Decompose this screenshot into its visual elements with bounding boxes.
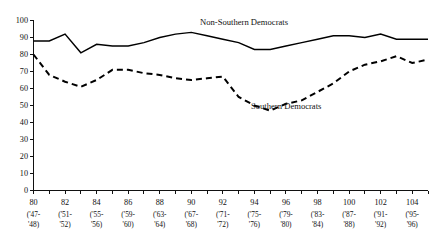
series-annotation-label: Southern Democrats bbox=[251, 101, 322, 111]
series-line-southern-democrats bbox=[34, 55, 429, 111]
x-tick-label: 80 bbox=[29, 198, 37, 207]
x-tick-sublabel-years-start: ('87- bbox=[342, 210, 356, 219]
x-tick-sublabel-years-end: '68) bbox=[186, 220, 198, 229]
x-tick-sublabel-years-end: '72) bbox=[217, 220, 229, 229]
x-tick-sublabel-years-end: '52) bbox=[59, 220, 71, 229]
x-tick-sublabel-years-end: '48) bbox=[28, 220, 40, 229]
y-tick-label: 100 bbox=[16, 16, 28, 25]
x-tick-label: 98 bbox=[313, 198, 321, 207]
x-tick-label: 88 bbox=[156, 198, 164, 207]
x-tick-sublabel-years-end: '56) bbox=[91, 220, 103, 229]
line-chart-svg: 0102030405060708090100 80('47-'48)82('51… bbox=[0, 0, 442, 241]
series-group bbox=[34, 32, 429, 110]
x-tick-sublabel-years-start: ('91- bbox=[374, 210, 388, 219]
x-tick-label: 84 bbox=[93, 198, 101, 207]
x-tick-sublabel-years-end: '84) bbox=[312, 220, 324, 229]
x-tick-label: 104 bbox=[406, 198, 418, 207]
x-tick-label: 100 bbox=[343, 198, 355, 207]
series-annotation-label: Non-Southern Democrats bbox=[200, 17, 289, 27]
y-tick-label: 30 bbox=[20, 135, 28, 144]
x-tick-labels: 80('47-'48)82('51-'52)84('55-'56)86('59-… bbox=[27, 198, 420, 229]
series-line-non-southern-democrats bbox=[34, 32, 429, 52]
x-tick-sublabel-years-end: '76) bbox=[249, 220, 261, 229]
y-tick-label: 90 bbox=[20, 33, 28, 42]
x-tick-sublabel-years-start: ('79- bbox=[279, 210, 293, 219]
x-tick-label: 82 bbox=[61, 198, 69, 207]
x-tick-sublabel-years-start: ('63- bbox=[153, 210, 167, 219]
chart-figure: 0102030405060708090100 80('47-'48)82('51… bbox=[0, 0, 442, 241]
x-tick-sublabel-years-start: ('55- bbox=[90, 210, 104, 219]
x-tick-sublabel-years-start: ('47- bbox=[27, 210, 41, 219]
y-tick-label: 10 bbox=[20, 169, 28, 178]
x-tick-sublabel-years-start: ('51- bbox=[58, 210, 72, 219]
x-tick-label: 102 bbox=[375, 198, 387, 207]
x-tick-sublabel-years-start: ('67- bbox=[184, 210, 198, 219]
y-tick-label: 20 bbox=[20, 152, 28, 161]
x-tick-sublabel-years-end: '60) bbox=[123, 220, 135, 229]
x-tick-label: 90 bbox=[187, 198, 195, 207]
x-tick-sublabel-years-start: ('71- bbox=[216, 210, 230, 219]
x-tick-label: 94 bbox=[250, 198, 258, 207]
y-tick-label: 70 bbox=[20, 67, 28, 76]
x-tick-sublabel-years-start: ('75- bbox=[248, 210, 262, 219]
x-tick-sublabel-years-start: ('59- bbox=[121, 210, 135, 219]
x-tick-sublabel-years-start: ('95- bbox=[405, 210, 419, 219]
x-tick-label: 86 bbox=[124, 198, 132, 207]
x-tick-label: 92 bbox=[219, 198, 227, 207]
x-tick-sublabel-years-end: '96) bbox=[407, 220, 419, 229]
y-axis-group: 0102030405060708090100 bbox=[16, 16, 34, 195]
x-tick-sublabel-years-end: '80) bbox=[280, 220, 292, 229]
x-axis-group: 80('47-'48)82('51-'52)84('55-'56)86('59-… bbox=[27, 191, 428, 229]
x-tick-label: 96 bbox=[282, 198, 290, 207]
series-annotations: Non-Southern DemocratsSouthern Democrats bbox=[200, 17, 322, 111]
x-tick-sublabel-years-end: '88) bbox=[344, 220, 356, 229]
y-tick-label: 0 bbox=[24, 186, 28, 195]
y-tick-label: 50 bbox=[20, 101, 28, 110]
x-tick-sublabel-years-end: '64) bbox=[154, 220, 166, 229]
y-tick-label: 80 bbox=[20, 50, 28, 59]
x-tick-sublabel-years-start: ('83- bbox=[311, 210, 325, 219]
x-tick-sublabel-years-end: '92) bbox=[375, 220, 387, 229]
y-tick-labels: 0102030405060708090100 bbox=[16, 16, 28, 195]
y-tick-label: 40 bbox=[20, 118, 28, 127]
y-tick-label: 60 bbox=[20, 84, 28, 93]
